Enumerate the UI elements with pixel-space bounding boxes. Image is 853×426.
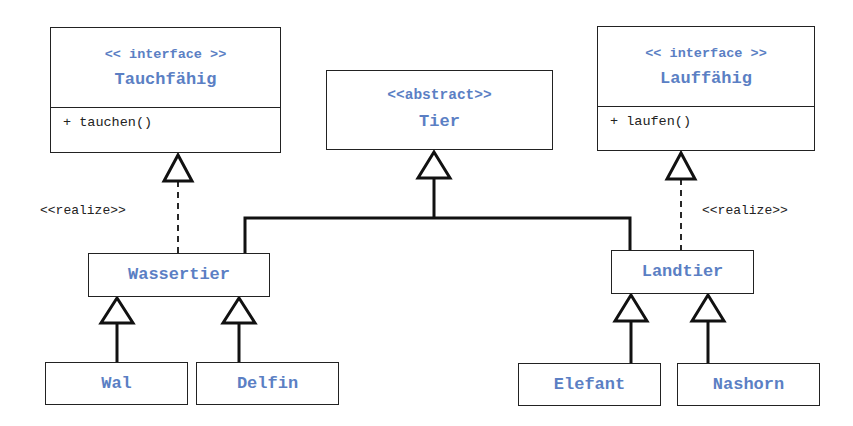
- class-name: Nashorn: [713, 373, 784, 397]
- operations-compartment: + laufen(): [598, 106, 814, 149]
- stereotype-label: << interface >>: [645, 45, 767, 63]
- class-box-delfin[interactable]: Delfin: [196, 362, 339, 405]
- class-name: Wassertier: [128, 263, 230, 287]
- class-box-wassertier[interactable]: Wassertier: [88, 253, 270, 297]
- hollow-triangle-icon: [101, 298, 133, 323]
- generalization-delfin-wassertier: [223, 298, 255, 362]
- hollow-triangle-icon: [615, 295, 647, 321]
- hollow-triangle-icon: [223, 298, 255, 323]
- realize-label-right: <<realize>>: [702, 203, 788, 218]
- class-name: Delfin: [237, 372, 298, 396]
- generalization-wal-wassertier: [101, 298, 133, 362]
- stereotype-label: <<abstract>>: [387, 86, 491, 104]
- class-name: Landtier: [642, 260, 724, 284]
- class-name: Elefant: [554, 373, 625, 397]
- class-header: << interface >> Tauchfähig: [51, 28, 280, 107]
- class-box-nashorn[interactable]: Nashorn: [677, 363, 820, 406]
- operation: + laufen(): [610, 113, 814, 131]
- realization-wassertier-tauchfaehig: [164, 155, 192, 253]
- hollow-triangle-icon: [164, 155, 192, 181]
- generalization-nashorn-landtier: [692, 295, 724, 363]
- hollow-triangle-icon: [692, 295, 724, 321]
- class-box-lauffaehig[interactable]: << interface >> Lauffähig + laufen(): [597, 26, 815, 151]
- class-header: << interface >> Lauffähig: [598, 27, 814, 106]
- class-box-tauchfaehig[interactable]: << interface >> Tauchfähig + tauchen(): [50, 27, 281, 153]
- class-box-landtier[interactable]: Landtier: [611, 250, 754, 294]
- realize-label-left: <<realize>>: [40, 203, 126, 218]
- generalization-to-tier: [245, 152, 630, 253]
- hollow-triangle-icon: [418, 152, 450, 178]
- class-box-elefant[interactable]: Elefant: [518, 363, 661, 406]
- class-name: Wal: [101, 372, 132, 396]
- generalization-elefant-landtier: [615, 295, 647, 363]
- operation: + tauchen(): [63, 114, 280, 132]
- class-box-wal[interactable]: Wal: [45, 362, 188, 405]
- stereotype-label: << interface >>: [105, 46, 227, 64]
- class-name: Tier: [419, 110, 460, 134]
- realization-landtier-lauffaehig: [667, 153, 695, 250]
- class-name: Lauffähig: [660, 67, 752, 91]
- operations-compartment: + tauchen(): [51, 107, 280, 151]
- class-box-tier[interactable]: <<abstract>> Tier: [326, 70, 553, 150]
- class-header: <<abstract>> Tier: [327, 71, 552, 148]
- class-name: Tauchfähig: [114, 68, 216, 92]
- hollow-triangle-icon: [667, 153, 695, 179]
